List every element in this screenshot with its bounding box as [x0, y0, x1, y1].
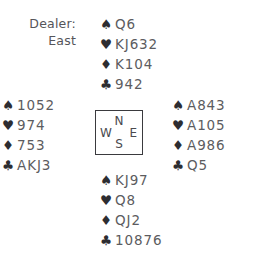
hand-north-diamonds: K104: [115, 54, 153, 74]
hand-north-spades: Q6: [115, 14, 136, 34]
spade-icon: ♠: [100, 170, 115, 190]
compass-box: N W E S: [95, 110, 143, 155]
dealer-label: Dealer:: [8, 15, 76, 32]
hand-east: ♠ A843 ♥ A105 ♦ A986 ♣ Q5: [172, 95, 226, 175]
hand-west-clubs-row: ♣ AKJ3: [2, 155, 55, 175]
hand-south-spades-row: ♠ KJ97: [100, 170, 162, 190]
hand-south-clubs: 10876: [115, 230, 162, 250]
hand-east-hearts-row: ♥ A105: [172, 115, 226, 135]
club-icon: ♣: [100, 230, 115, 250]
spade-icon: ♠: [2, 95, 17, 115]
hand-west: ♠ 1052 ♥ 974 ♦ 753 ♣ AKJ3: [2, 95, 55, 175]
hand-south-spades: KJ97: [115, 170, 149, 190]
dealer-annotation: Dealer: East: [8, 15, 76, 49]
hand-north: ♠ Q6 ♥ KJ632 ♦ K104 ♣ 942: [100, 14, 158, 94]
hand-south-clubs-row: ♣ 10876: [100, 230, 162, 250]
hand-east-clubs: Q5: [187, 155, 208, 175]
hand-south-hearts: Q8: [115, 190, 136, 210]
hand-north-clubs: 942: [115, 74, 143, 94]
hand-west-hearts-row: ♥ 974: [2, 115, 55, 135]
hand-south: ♠ KJ97 ♥ Q8 ♦ QJ2 ♣ 10876: [100, 170, 162, 250]
hand-west-diamonds-row: ♦ 753: [2, 135, 55, 155]
spade-icon: ♠: [100, 14, 115, 34]
heart-icon: ♥: [100, 190, 115, 210]
dealer-value: East: [8, 32, 76, 49]
club-icon: ♣: [100, 74, 115, 94]
diamond-icon: ♦: [100, 54, 115, 74]
hand-west-diamonds: 753: [17, 135, 45, 155]
hand-west-spades: 1052: [17, 95, 55, 115]
hand-south-diamonds-row: ♦ QJ2: [100, 210, 162, 230]
hand-east-spades: A843: [187, 95, 226, 115]
hand-east-diamonds-row: ♦ A986: [172, 135, 226, 155]
hand-east-hearts: A105: [187, 115, 226, 135]
hand-east-clubs-row: ♣ Q5: [172, 155, 226, 175]
hand-north-diamonds-row: ♦ K104: [100, 54, 158, 74]
hand-west-hearts: 974: [17, 115, 45, 135]
diamond-icon: ♦: [2, 135, 17, 155]
hand-north-hearts-row: ♥ KJ632: [100, 34, 158, 54]
diamond-icon: ♦: [100, 210, 115, 230]
hand-north-spades-row: ♠ Q6: [100, 14, 158, 34]
hand-north-clubs-row: ♣ 942: [100, 74, 158, 94]
compass-north-label: N: [115, 115, 124, 127]
compass-east-label: E: [129, 127, 137, 139]
hand-south-diamonds: QJ2: [115, 210, 141, 230]
heart-icon: ♥: [172, 115, 187, 135]
compass-west-label: W: [100, 127, 112, 139]
hand-south-hearts-row: ♥ Q8: [100, 190, 162, 210]
heart-icon: ♥: [2, 115, 17, 135]
club-icon: ♣: [172, 155, 187, 175]
hand-east-diamonds: A986: [187, 135, 226, 155]
heart-icon: ♥: [100, 34, 115, 54]
spade-icon: ♠: [172, 95, 187, 115]
club-icon: ♣: [2, 155, 17, 175]
hand-west-spades-row: ♠ 1052: [2, 95, 55, 115]
hand-west-clubs: AKJ3: [17, 155, 51, 175]
hand-east-spades-row: ♠ A843: [172, 95, 226, 115]
hand-north-hearts: KJ632: [115, 34, 158, 54]
diamond-icon: ♦: [172, 135, 187, 155]
compass-south-label: S: [115, 138, 123, 150]
